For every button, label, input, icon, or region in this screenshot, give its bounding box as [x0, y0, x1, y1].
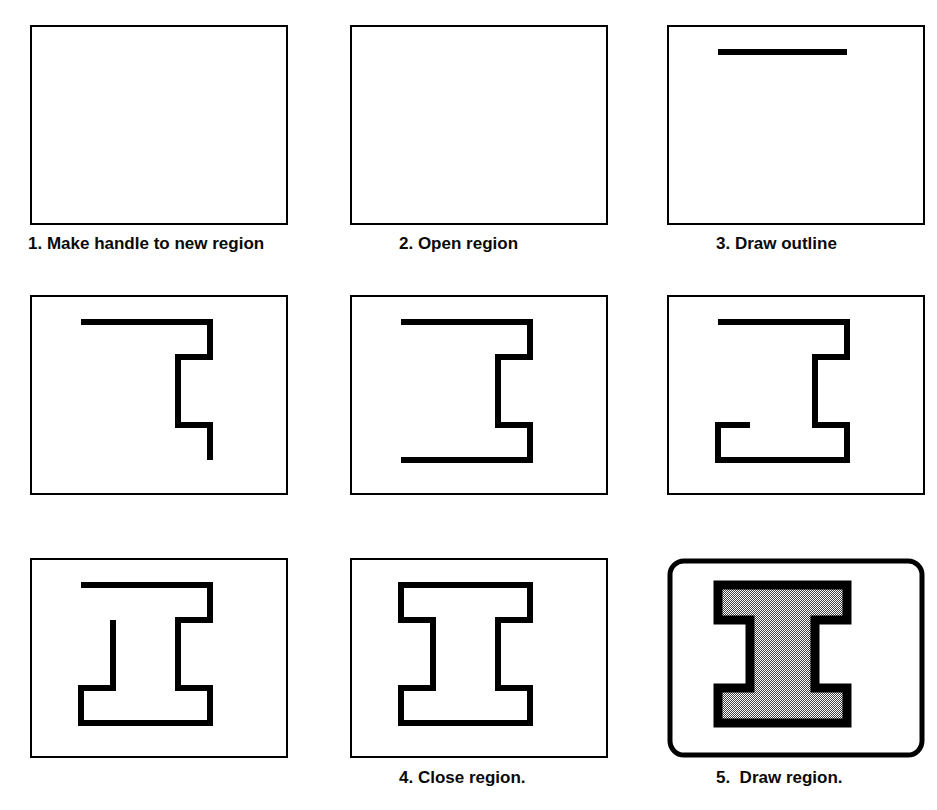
panel-4-canvas — [30, 295, 288, 495]
panel-8-canvas — [350, 558, 608, 758]
panel-2-canvas — [350, 25, 608, 225]
panel-3-draw-outline — [667, 25, 925, 225]
panel-3-canvas — [667, 25, 925, 225]
panel-6-outline-progress-c — [667, 295, 925, 495]
panel-frame-rectangle — [31, 26, 287, 224]
caption-panel-3: 3. Draw outline — [716, 234, 837, 254]
figure-region-construction-sequence: 1. Make handle to new region 2. Open reg… — [0, 0, 937, 810]
panel-7-outline-progress-d — [30, 558, 288, 758]
panel-9-canvas — [667, 558, 925, 758]
panel-frame-rectangle — [668, 26, 924, 224]
panel-2-open-region — [350, 25, 608, 225]
panel-frame-rectangle — [351, 296, 607, 494]
panel-5-canvas — [350, 295, 608, 495]
caption-panel-2: 2. Open region — [399, 234, 518, 254]
panel-frame-rectangle — [31, 296, 287, 494]
panel-8-close-region — [350, 558, 608, 758]
caption-panel-8: 4. Close region. — [399, 768, 526, 788]
panel-4-outline-progress-a — [30, 295, 288, 495]
caption-panel-1: 1. Make handle to new region — [28, 234, 264, 254]
panel-frame-rectangle — [31, 559, 287, 757]
caption-panel-9: 5. Draw region. — [716, 768, 843, 788]
panel-frame-rectangle — [668, 296, 924, 494]
panel-1-make-handle — [30, 25, 288, 225]
panel-1-canvas — [30, 25, 288, 225]
panel-9-draw-region — [667, 558, 925, 758]
panel-frame-rectangle — [351, 26, 607, 224]
panel-7-canvas — [30, 558, 288, 758]
panel-frame-rectangle — [351, 559, 607, 757]
panel-6-canvas — [667, 295, 925, 495]
panel-5-outline-progress-b — [350, 295, 608, 495]
